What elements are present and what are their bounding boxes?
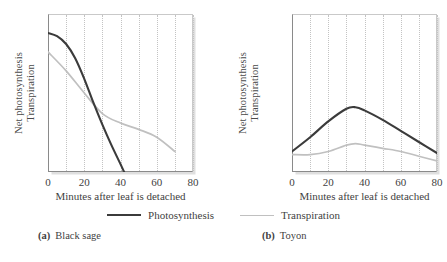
caption-a-key: (a) [38, 230, 50, 241]
y-axis-label-line2: Transpiration [25, 64, 37, 122]
gridline [437, 15, 438, 171]
legend-label-transpiration: Transpiration [281, 209, 340, 221]
x-tick-label: 20 [79, 176, 90, 188]
plot-area-b: 020406080 Minutes after leaf is detached [292, 14, 437, 172]
x-tick-label: 0 [289, 176, 295, 188]
x-tick-label: 80 [432, 176, 443, 188]
curves-b [292, 14, 437, 172]
caption-b-key: (b) [262, 230, 275, 241]
x-axis-title-b: Minutes after leaf is detached [299, 190, 429, 202]
chart-panel-b: Net photosynthesis Transpiration 0204060… [224, 0, 447, 200]
caption-a: (a)Black sage [38, 230, 101, 241]
x-tick-label: 40 [115, 176, 126, 188]
y-axis-label-b: Net photosynthesis Transpiration [230, 14, 268, 172]
curves-a [48, 14, 193, 172]
x-axis-ticks-a: 020406080 [48, 172, 193, 190]
x-tick-label: 40 [359, 176, 370, 188]
caption-a-text: Black sage [55, 230, 101, 241]
gridline [193, 15, 194, 171]
x-tick-label: 60 [395, 176, 406, 188]
x-axis-title-a: Minutes after leaf is detached [55, 190, 185, 202]
x-tick-label: 0 [45, 176, 51, 188]
series-line-photosynthesis-b [292, 107, 437, 153]
x-tick-label: 60 [151, 176, 162, 188]
chart-panel-a: Net photosynthesis Transpiration 0204060… [0, 0, 223, 200]
y-axis-label-line1: Net photosynthesis [13, 52, 25, 134]
x-tick-label: 80 [188, 176, 199, 188]
x-axis-ticks-b: 020406080 [292, 172, 437, 190]
legend-item-photosynthesis: Photosynthesis [107, 209, 214, 221]
caption-b: (b)Toyon [262, 230, 307, 241]
x-tick-label: 20 [323, 176, 334, 188]
legend-swatch-transpiration [240, 215, 274, 216]
plot-area-a: 020406080 Minutes after leaf is detached [48, 14, 193, 172]
series-line-transpiration-b [292, 144, 437, 161]
series-line-transpiration-a [48, 52, 175, 152]
y-axis-label-line1: Net photosynthesis [237, 52, 249, 134]
series-line-photosynthesis-a [48, 33, 124, 172]
legend-item-transpiration: Transpiration [240, 209, 340, 221]
y-axis-label-a: Net photosynthesis Transpiration [6, 14, 44, 172]
legend-label-photosynthesis: Photosynthesis [148, 209, 214, 221]
y-axis-label-line2: Transpiration [249, 64, 261, 122]
figure-root: Net photosynthesis Transpiration 0204060… [0, 0, 447, 262]
caption-b-text: Toyon [280, 230, 307, 241]
legend-swatch-photosynthesis [107, 214, 141, 216]
figure-legend: Photosynthesis Transpiration [0, 206, 447, 224]
